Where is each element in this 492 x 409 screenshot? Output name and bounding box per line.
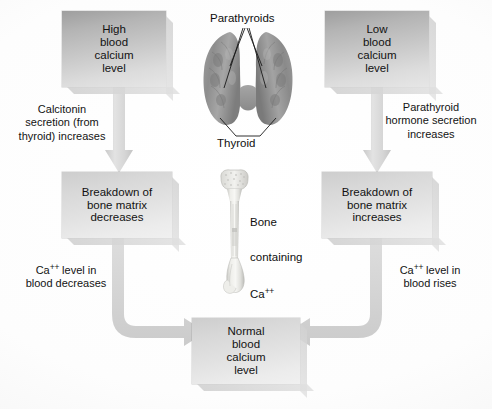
box-label: Low blood calcium level [354, 23, 401, 75]
box-bevel-bottom [67, 87, 180, 94]
thyroid-gland-illustration [196, 26, 300, 144]
note-parathyroid-hormone: Parathyroid hormone secretion increases [372, 101, 490, 141]
box-low-blood-calcium: Low blood calcium level [325, 11, 429, 87]
label-bone-line1: Bone [250, 214, 302, 232]
box-label: High blood calcium level [91, 23, 138, 75]
box-breakdown-increases: Breakdown of bone matrix increases [322, 172, 432, 238]
box-bevel-bottom [197, 384, 314, 391]
label-bone-ca-superscript: ++ [265, 286, 274, 296]
note-calcitonin-secretion: Calcitonin secretion (from thyroid) incr… [6, 103, 118, 143]
note-ca-superscript: ++ [414, 262, 423, 272]
note-ca-prefix: Ca [36, 264, 50, 276]
box-normal-blood-calcium: Normal blood calcium level [192, 318, 300, 384]
box-breakdown-decreases: Breakdown of bone matrix decreases [62, 172, 172, 238]
box-bevel-bottom [327, 238, 446, 245]
calcium-regulation-diagram: High blood calcium level Low blood calci… [0, 0, 492, 409]
box-high-blood-calcium: High blood calcium level [62, 11, 166, 87]
box-label: Normal blood calcium level [223, 325, 270, 377]
box-label: Breakdown of bone matrix increases [338, 186, 416, 225]
label-bone-ca: Ca [250, 288, 265, 300]
note-calcium-rises: Ca++ level in blood rises [372, 262, 488, 290]
note-ca-superscript: ++ [50, 262, 59, 272]
bone-illustration [216, 168, 252, 298]
note-ca-prefix: Ca [400, 264, 414, 276]
label-parathyroids: Parathyroids [210, 12, 275, 24]
label-bone-containing-calcium: Bone containing Ca++ [250, 196, 302, 321]
box-bevel-bottom [330, 87, 443, 94]
label-thyroid: Thyroid [217, 137, 255, 149]
box-label: Breakdown of bone matrix decreases [78, 186, 156, 225]
label-bone-line3: Ca++ [250, 285, 302, 303]
label-bone-line2: containing [250, 249, 302, 267]
note-calcium-decreases: Ca++ level in blood decreases [8, 262, 124, 290]
box-bevel-bottom [67, 238, 186, 245]
